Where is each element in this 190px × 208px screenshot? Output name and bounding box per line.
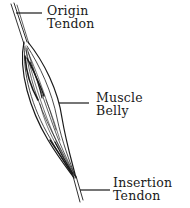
muscle-belly [22,42,76,178]
insertion-tendon-label: Insertion Tendon [113,176,172,202]
origin-tendon [11,3,29,44]
insertion-tendon [73,176,83,202]
origin-tendon-label: Origin Tendon [47,4,95,30]
muscle-belly-label: Muscle Belly [96,91,143,117]
insertion-label-line2: Tendon [113,189,172,202]
origin-label-line2: Tendon [47,17,95,30]
belly-label-line2: Belly [96,104,143,117]
